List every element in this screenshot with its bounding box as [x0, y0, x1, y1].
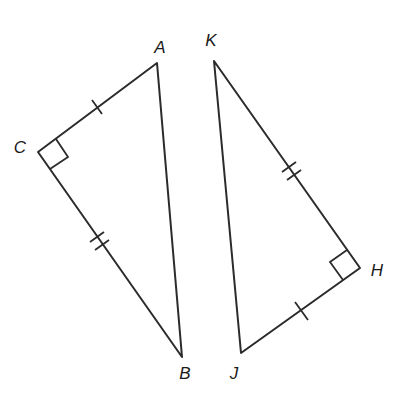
tick-mark-hj: [295, 302, 308, 320]
vertex-label-c: C: [14, 138, 27, 157]
tick-mark-kh-2: [287, 170, 301, 180]
vertex-label-h: H: [371, 261, 384, 280]
vertex-label-a: A: [153, 38, 165, 57]
vertex-label-j: J: [229, 364, 239, 383]
right-angle-marker-c: [50, 139, 68, 169]
congruent-triangles-diagram: A B C K H J: [0, 0, 411, 400]
triangle-abc: A B C: [14, 38, 191, 383]
triangle-abc-outline: [38, 63, 182, 357]
vertex-label-b: B: [179, 364, 190, 383]
vertex-label-k: K: [205, 31, 217, 50]
tick-mark-ca: [92, 100, 102, 114]
triangle-khj: K H J: [205, 31, 384, 383]
tick-mark-kh-1: [282, 162, 296, 172]
tick-mark-cb-1: [90, 232, 104, 242]
right-angle-marker-h: [330, 250, 347, 280]
triangle-khj-outline: [214, 61, 360, 353]
